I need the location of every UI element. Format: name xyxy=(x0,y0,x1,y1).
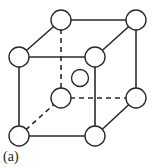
atom-back-top-left xyxy=(51,10,71,30)
atom-back-top-right xyxy=(126,10,146,30)
atom-front-top-left xyxy=(9,47,29,67)
atom-back-bottom-right xyxy=(126,88,146,108)
atom-front-bottom-left xyxy=(9,126,29,146)
figure-label: (a) xyxy=(3,149,19,165)
atom-front-top-right xyxy=(85,47,105,67)
bcc-unit-cell-diagram xyxy=(0,0,156,168)
atom-body-center xyxy=(72,70,89,87)
atom-front-bottom-right xyxy=(85,126,105,146)
atom-back-bottom-left xyxy=(51,88,71,108)
